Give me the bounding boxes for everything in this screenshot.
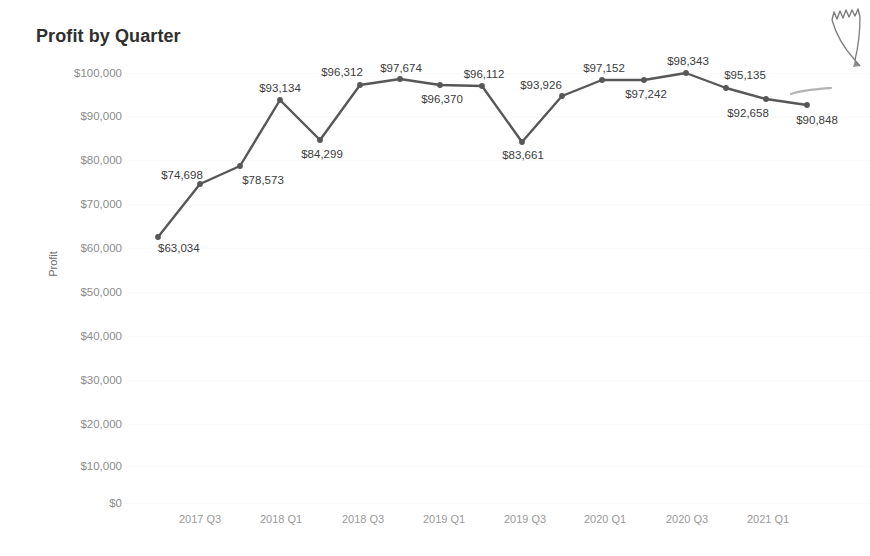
x-axis-tick-label: 2019 Q1 <box>423 513 465 525</box>
scan-artifact-icon <box>826 4 870 78</box>
x-axis-tick-label: 2018 Q1 <box>260 513 302 525</box>
x-axis-tick-label: 2017 Q3 <box>179 513 221 525</box>
chart-page: Profit by Quarter $63,034$74,698$78,573$… <box>0 0 870 556</box>
scan-smudge-icon <box>790 86 832 96</box>
x-axis-tick-label: 2021 Q1 <box>747 513 789 525</box>
x-axis-tick-label: 2019 Q3 <box>504 513 546 525</box>
x-axis-tick-label: 2018 Q3 <box>342 513 384 525</box>
x-axis-ticks: 2017 Q32018 Q12018 Q32019 Q12019 Q32020 … <box>0 0 870 556</box>
x-axis-tick-label: 2020 Q1 <box>584 513 626 525</box>
x-axis-tick-label: 2020 Q3 <box>666 513 708 525</box>
